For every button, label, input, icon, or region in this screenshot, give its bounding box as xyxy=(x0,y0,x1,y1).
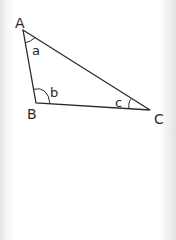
triangle-abc xyxy=(23,30,150,110)
angle-arc-c xyxy=(129,99,131,109)
triangle-diagram: A B C a b c xyxy=(0,0,176,132)
angle-label-a: a xyxy=(32,43,40,58)
vertex-label-a: A xyxy=(15,15,25,31)
angle-arc-a xyxy=(25,37,35,43)
angle-label-c: c xyxy=(115,95,122,110)
vertex-label-c: C xyxy=(154,111,164,127)
vertex-label-b: B xyxy=(27,106,37,122)
angle-label-b: b xyxy=(50,85,58,100)
